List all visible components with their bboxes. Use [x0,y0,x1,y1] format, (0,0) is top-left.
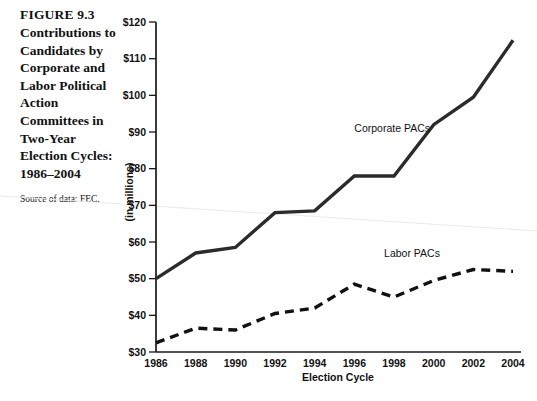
y-tick-label: $120 [123,16,147,28]
x-axis-title: Election Cycle [302,371,374,383]
x-tick-label: 2004 [501,357,525,369]
series-label-labor-pacs: Labor PACs [384,247,440,259]
y-tick-label: $30 [128,346,146,358]
x-tick-label: 1988 [184,357,208,369]
series-line-labor-pacs [156,270,513,343]
figure-container: FIGURE 9.3 Contributions to Candidates b… [0,0,537,401]
series-annotations: Corporate PACsLabor PACs [354,122,440,259]
x-axis-ticks: 1986198819901992199419961998200020022004 [144,357,525,369]
series-line-corporate-pacs [156,40,513,278]
y-tick-label: $50 [128,272,146,284]
x-tick-label: 1998 [382,357,406,369]
y-axis-title: (in millions) [123,163,135,222]
x-tick-label: 1986 [144,357,168,369]
x-tick-label: 1994 [303,357,327,369]
line-chart: $30$40$50$60$70$80$90$100$110$120 198619… [0,0,537,401]
x-tick-label: 2000 [422,357,446,369]
x-tick-label: 1990 [224,357,248,369]
y-tick-label: $60 [128,236,146,248]
x-tick-label: 1996 [343,357,367,369]
scan-artifact-line [0,196,537,231]
series-label-corporate-pacs: Corporate PACs [354,122,430,134]
y-tick-label: $40 [128,309,146,321]
data-series-group [156,40,513,343]
y-tick-label: $110 [123,52,146,64]
x-tick-label: 2002 [462,357,486,369]
x-tick-label: 1992 [263,357,287,369]
chart-plot-area: $30$40$50$60$70$80$90$100$110$120 198619… [0,0,537,401]
y-tick-label: $90 [128,126,146,138]
y-tick-label: $100 [123,89,147,101]
